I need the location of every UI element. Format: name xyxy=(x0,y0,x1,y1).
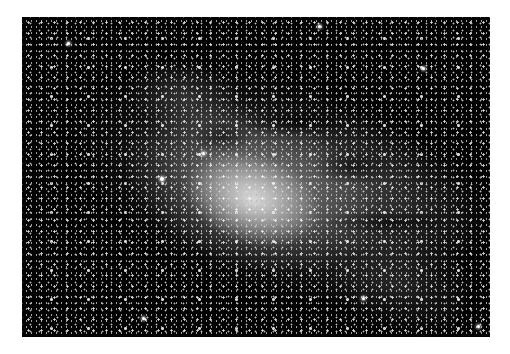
bright-star xyxy=(160,177,164,181)
bright-star xyxy=(67,42,70,45)
bright-star xyxy=(477,325,480,328)
bright-star xyxy=(318,25,321,28)
milky-way-photo xyxy=(22,17,490,337)
bright-star xyxy=(422,67,425,70)
bright-star xyxy=(362,297,365,300)
star-field xyxy=(22,17,490,337)
bright-star xyxy=(142,317,145,320)
bright-star xyxy=(202,152,205,155)
